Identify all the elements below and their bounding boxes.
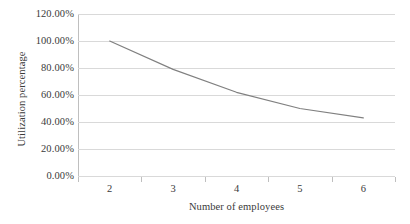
y-axis-tick-label: 20.00% [22,143,74,155]
x-axis-tick-label: 6 [343,182,383,196]
y-axis-tick-label: 40.00% [22,116,74,128]
plot-area [78,14,395,176]
x-axis-tick-label: 2 [90,182,130,196]
y-axis-tick-label: 100.00% [22,35,74,47]
x-axis-tick-mark [395,177,396,182]
series-line [110,41,364,118]
x-axis-tick-label: 4 [217,182,257,196]
series-line-utilization-percentage [78,14,395,176]
y-axis-tick-label: 60.00% [22,89,74,101]
utilization-line-chart: Utilization percentage 0.00%20.00%40.00%… [0,0,410,224]
y-axis-tick-label: 0.00% [22,170,74,182]
x-axis-title: Number of employees [78,199,395,215]
y-axis-tick-label-group: 0.00%20.00%40.00%60.00%80.00%100.00%120.… [22,8,74,176]
x-axis-tick-label-group: 23456 [78,182,395,198]
y-axis-tick-label: 120.00% [22,8,74,20]
y-axis-tick-label: 80.00% [22,62,74,74]
x-axis-tick-label: 5 [280,182,320,196]
x-axis-tick-label: 3 [153,182,193,196]
